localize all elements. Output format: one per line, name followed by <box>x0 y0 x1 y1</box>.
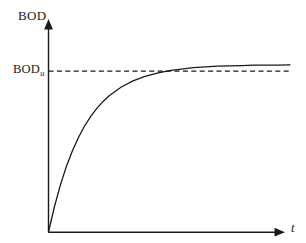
ultimate-bod-label-base: BOD <box>13 62 40 76</box>
ultimate-bod-label: BODu <box>13 63 44 76</box>
plot-canvas <box>0 0 306 243</box>
ultimate-bod-label-subscript: u <box>40 68 44 78</box>
y-axis-title: BOD <box>18 9 46 22</box>
x-axis <box>49 228 286 237</box>
bod-curve-path <box>49 65 291 232</box>
bod-curve-figure: BOD BODu t <box>0 0 306 243</box>
x-axis-arrowhead-icon <box>275 228 286 237</box>
x-axis-title: t <box>291 222 294 235</box>
y-axis <box>44 19 53 232</box>
